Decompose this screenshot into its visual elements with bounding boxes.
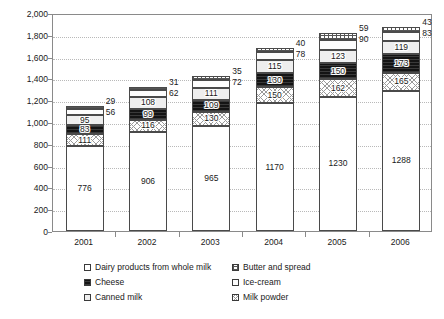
legend-item[interactable]: Butter and spread	[232, 263, 376, 272]
bar-segment[interactable]	[256, 52, 294, 61]
gridline	[53, 124, 431, 125]
x-axis-tick-label: 2004	[244, 238, 304, 247]
bar-segment[interactable]: 111	[192, 88, 230, 100]
bar-segment[interactable]: 776	[66, 146, 104, 231]
bar-value-callout: 35	[232, 67, 241, 76]
y-axis-tick-label: 1,800	[4, 32, 48, 41]
legend-item[interactable]: Ice-cream	[232, 278, 376, 287]
x-axis-tick-label: 2003	[180, 238, 240, 247]
bar-value-label: 150	[331, 67, 345, 76]
bar-value-label: 123	[331, 52, 345, 61]
bar-value-label: 111	[205, 89, 218, 98]
bar-value-label: 1170	[266, 163, 284, 172]
bar-segment[interactable]: 150	[319, 63, 357, 79]
bar-segment[interactable]	[319, 40, 357, 50]
bar-value-callout: 62	[169, 89, 178, 98]
x-axis-tick-label: 2001	[54, 238, 114, 247]
bar-value-callout: 56	[106, 108, 115, 117]
bar-segment[interactable]	[129, 90, 167, 97]
legend-swatch-icon	[232, 264, 239, 271]
bar-value-label: 95	[80, 116, 89, 125]
y-axis-tick-label: 1,600	[4, 54, 48, 63]
bar-value-label: 162	[331, 84, 345, 93]
x-axis-separator	[115, 232, 116, 237]
bar-value-label: 1288	[392, 156, 411, 165]
bar-stack[interactable]: 7761118395	[66, 13, 104, 231]
bar-segment[interactable]: 99	[129, 109, 167, 120]
bar-segment[interactable]: 162	[319, 79, 357, 97]
bar-segment[interactable]: 906	[129, 132, 167, 231]
bar-segment[interactable]	[192, 80, 230, 88]
bar-segment[interactable]: 173	[382, 54, 420, 73]
legend-swatch-icon	[84, 279, 91, 286]
bar-stack[interactable]: 1170150130115	[256, 13, 294, 231]
bar-segment[interactable]: 1170	[256, 103, 294, 231]
bar-segment[interactable]: 115	[256, 60, 294, 73]
bar-value-label: 108	[141, 98, 155, 107]
bar-segment[interactable]: 1230	[319, 97, 357, 231]
y-axis-tick-label: 0	[4, 228, 48, 237]
y-axis-tick-label: 600	[4, 163, 48, 172]
legend-label: Milk powder	[243, 293, 288, 302]
y-axis-tick-label: 1,200	[4, 97, 48, 106]
bar-value-label: 99	[143, 110, 152, 119]
bar-value-label: 130	[268, 76, 282, 85]
bar-value-callout: 43	[422, 18, 431, 27]
legend-label: Cheese	[95, 278, 124, 287]
legend-item[interactable]: Canned milk	[84, 293, 232, 302]
y-axis-tick-label: 400	[4, 184, 48, 193]
legend-item[interactable]: Cheese	[84, 278, 232, 287]
chart-legend: Dairy products from whole milkButter and…	[84, 260, 376, 305]
legend-item[interactable]: Milk powder	[232, 293, 376, 302]
x-axis-separator	[305, 232, 306, 237]
stacked-bar-chart: 2,0001,8001,6001,4001,2001,0008006004002…	[0, 0, 444, 319]
x-axis-separator	[242, 232, 243, 237]
bar-segment[interactable]: 111	[66, 134, 104, 146]
bar-value-label: 109	[204, 101, 218, 110]
bar-segment[interactable]: 165	[382, 73, 420, 91]
bar-segment[interactable]: 1288	[382, 91, 420, 231]
legend-label: Dairy products from whole milk	[95, 263, 211, 272]
bar-value-callout: 40	[296, 39, 305, 48]
bar-stack[interactable]: 90611699108	[129, 13, 167, 231]
bar-value-label: 150	[268, 91, 282, 100]
bar-value-label: 165	[394, 77, 408, 86]
legend-swatch-icon	[232, 279, 239, 286]
bar-segment[interactable]: 109	[192, 100, 230, 112]
x-axis-separator	[179, 232, 180, 237]
bar-value-callout: 29	[106, 97, 115, 106]
bar-value-label: 965	[204, 174, 218, 183]
bar-stack[interactable]: 1230162150123	[319, 13, 357, 231]
bar-segment[interactable]: 123	[319, 50, 357, 63]
bar-value-label: 906	[141, 177, 155, 186]
bar-value-label: 116	[141, 121, 155, 130]
bar-segment[interactable]: 130	[256, 73, 294, 87]
gridline	[53, 59, 431, 60]
bar-stack[interactable]: 1288165173119	[382, 13, 420, 231]
bar-value-callout: 72	[232, 78, 241, 87]
bar-value-callout: 78	[296, 50, 305, 59]
y-axis-tick-label: 200	[4, 206, 48, 215]
bar-segment[interactable]	[382, 32, 420, 41]
bar-value-callout: 83	[422, 29, 431, 38]
legend-label: Ice-cream	[243, 278, 281, 287]
legend-label: Butter and spread	[243, 263, 311, 272]
bar-segment[interactable]: 150	[256, 87, 294, 103]
y-axis-tick-label: 2,000	[4, 10, 48, 19]
bar-segment[interactable]: 965	[192, 126, 230, 231]
bar-segment[interactable]: 83	[66, 125, 104, 134]
legend-swatch-icon	[232, 294, 239, 301]
bar-stack[interactable]: 965130109111	[192, 13, 230, 231]
x-axis-tick-label: 2006	[370, 238, 430, 247]
legend-item[interactable]: Dairy products from whole milk	[84, 263, 232, 272]
gridline	[53, 146, 431, 147]
bar-segment[interactable]: 108	[129, 97, 167, 109]
bar-segment[interactable]: 116	[129, 120, 167, 133]
plot-area: 2956776111839531629061169910835729651301…	[52, 14, 432, 232]
legend-swatch-icon	[84, 264, 91, 271]
bar-value-label: 1230	[329, 159, 348, 168]
bar-segment[interactable]: 130	[192, 112, 230, 126]
x-axis-tick-label: 2002	[117, 238, 177, 247]
y-axis-tick-mark	[48, 232, 52, 233]
bar-segment[interactable]: 119	[382, 41, 420, 54]
